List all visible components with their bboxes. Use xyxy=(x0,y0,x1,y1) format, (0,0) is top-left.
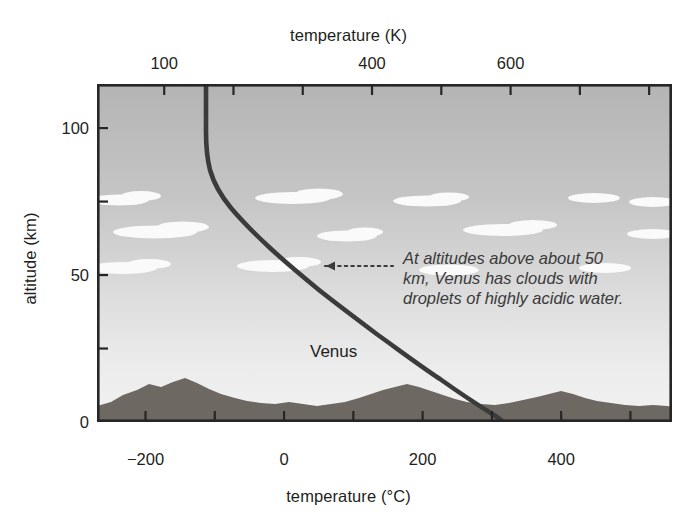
bottom-tick-label-2: 0 xyxy=(279,450,288,469)
top-tick-label-3: 400 xyxy=(358,54,386,73)
annotation-line-3: droplets of highly acidic water. xyxy=(403,289,623,307)
left-tick-label-2: 50 xyxy=(71,266,89,285)
venus-temperature-profile-figure: temperature (K) temperature (°C) altitud… xyxy=(0,0,697,525)
top-tick-label-5: 600 xyxy=(497,54,525,73)
venus-curve-label: Venus xyxy=(310,342,357,361)
y-axis-title: altitude (km) xyxy=(21,189,40,329)
left-tick-label-0: 0 xyxy=(80,413,89,432)
bottom-tick-label-0: −200 xyxy=(127,450,164,469)
annotation-text: At altitudes above about 50 km, Venus ha… xyxy=(402,249,623,307)
plot-area: Venus At altitudes above about 50 km, Ve… xyxy=(97,84,672,422)
bottom-tick-label-6: 400 xyxy=(547,450,575,469)
left-tick-label-4: 100 xyxy=(61,119,89,138)
bottom-tick-label-4: 200 xyxy=(409,450,437,469)
top-tick-label-0: 100 xyxy=(150,54,178,73)
annotation-line-2: km, Venus has clouds with xyxy=(403,269,598,287)
bottom-axis-title: temperature (°C) xyxy=(0,487,697,506)
top-axis-title: temperature (K) xyxy=(0,26,697,45)
annotation-line-1: At altitudes above about 50 xyxy=(402,249,604,267)
